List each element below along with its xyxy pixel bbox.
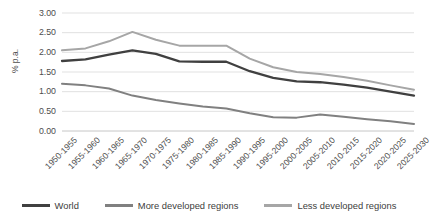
- legend-item-label: World: [55, 200, 79, 211]
- legend-swatch-icon: [105, 204, 133, 207]
- legend-swatch-icon: [22, 204, 50, 207]
- legend-item-label: Less developed regions: [297, 200, 396, 211]
- legend-swatch-icon: [264, 204, 292, 207]
- legend-item-label: More developed regions: [138, 200, 239, 211]
- legend-item[interactable]: Less developed regions: [264, 200, 396, 211]
- legend-item[interactable]: More developed regions: [105, 200, 239, 211]
- legend-item[interactable]: World: [22, 200, 79, 211]
- chart-legend: WorldMore developed regionsLess develope…: [0, 197, 418, 213]
